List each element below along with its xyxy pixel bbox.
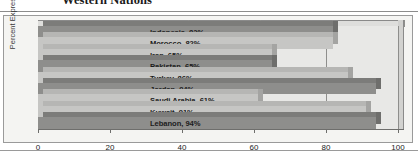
bar-end-cap: [333, 32, 338, 43]
bar-end-cap: [272, 44, 277, 55]
gridline: [398, 26, 399, 129]
bar-top-face: [43, 89, 263, 94]
bar-end-cap: [272, 55, 277, 66]
bar-end-cap: [366, 101, 371, 112]
bottom-divider: [0, 150, 418, 151]
x-axis-tick: [254, 130, 255, 133]
bar-end-cap: [376, 112, 381, 123]
bar-end-cap: [333, 21, 338, 32]
bar-body: [38, 117, 376, 128]
x-axis-tick: [398, 130, 399, 133]
x-axis-line: [38, 129, 404, 130]
y-axis-label: Percent Expressing Admiration: [6, 0, 20, 50]
bar-top-face: [43, 112, 381, 117]
bar-top-face: [43, 101, 371, 106]
x-axis-tick: [38, 130, 39, 133]
bar-top-face: [43, 78, 381, 83]
bar-end-cap: [348, 67, 353, 78]
bar-end-cap: [376, 78, 381, 89]
bar: [38, 117, 376, 128]
x-axis-tick: [182, 130, 183, 133]
page-title: Western Nations: [62, 0, 362, 8]
bar-end-cap: [258, 89, 263, 100]
bar-top-face: [43, 67, 353, 72]
bar-top-face: [43, 32, 338, 37]
bar-top-face: [43, 44, 277, 49]
gridline-top-face: [404, 20, 405, 27]
x-axis-tick: [110, 130, 111, 133]
title-divider: [0, 11, 418, 12]
bar-top-face: [43, 55, 277, 60]
x-axis-tick: [326, 130, 327, 133]
bar-value-label: Lebanon, 94%: [150, 119, 200, 128]
bar-top-face: [43, 21, 338, 26]
